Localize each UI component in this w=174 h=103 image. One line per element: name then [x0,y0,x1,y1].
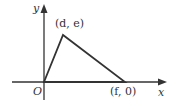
triangle-diagram: y (d, e) O (f, 0) x [0,0,174,103]
x-intercept-label: (f, 0) [110,86,136,97]
y-axis-label: y [33,3,39,14]
diagram-canvas [0,0,174,103]
origin-label: O [33,86,42,97]
apex-label: (d, e) [55,18,84,29]
y-axis-arrow-icon [41,4,48,13]
x-axis-arrow-icon [158,79,167,86]
apex-label-text: (d, e) [55,17,84,30]
x-axis-label: x [158,87,164,98]
triangle [44,35,125,82]
